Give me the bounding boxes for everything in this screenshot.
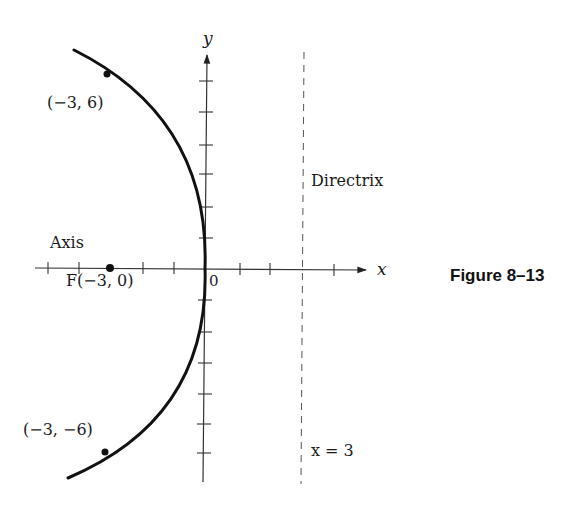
parabola-curve — [68, 50, 205, 478]
directrix-label: Directrix — [311, 171, 383, 190]
point-upper-marker — [104, 71, 111, 78]
focus-label: F(−3, 0) — [66, 271, 134, 290]
x-axis-label: x — [377, 259, 387, 279]
point-upper-label: (−3, 6) — [47, 93, 103, 112]
directrix-line — [301, 52, 304, 484]
parabola-figure: y x 0 Axis Directrix x = 3 F(−3, 0) (−3,… — [0, 0, 581, 522]
y-axis-label: y — [202, 28, 213, 48]
x-axis — [35, 268, 366, 270]
origin-label: 0 — [209, 272, 219, 290]
figure-caption: Figure 8–13 — [450, 266, 545, 285]
axis-label: Axis — [49, 233, 84, 252]
point-lower-marker — [102, 449, 109, 456]
point-lower-label: (−3, −6) — [23, 420, 93, 439]
directrix-equation-label: x = 3 — [311, 441, 354, 460]
